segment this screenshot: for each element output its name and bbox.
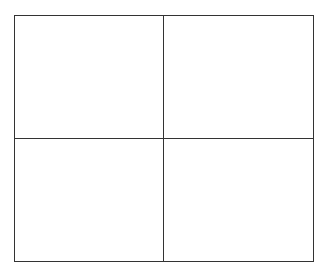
grid-cell-bottom-left <box>15 139 163 261</box>
grid-cell-bottom-right <box>164 139 313 261</box>
grid-cell-top-right <box>164 16 313 138</box>
grid-cell-top-left <box>15 16 163 138</box>
